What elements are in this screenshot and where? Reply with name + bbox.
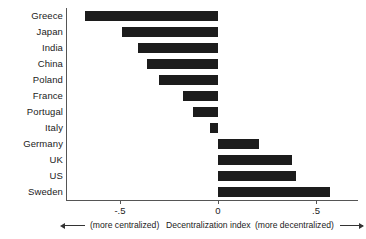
x-tick-label-0: -.5 <box>100 205 140 216</box>
x-tick-mark-1 <box>218 200 219 204</box>
bar-japan <box>122 27 218 37</box>
bar-italy <box>210 123 218 133</box>
category-label-italy: Italy <box>1 123 63 133</box>
category-label-china: China <box>1 59 63 69</box>
bar-uk <box>218 155 292 165</box>
category-label-poland: Poland <box>1 75 63 85</box>
bar-portugal <box>193 107 218 117</box>
arrow-right-icon <box>338 221 364 229</box>
caption-right: (more decentralized) <box>255 219 364 231</box>
bar-poland <box>159 75 218 85</box>
category-label-us: US <box>1 171 63 181</box>
x-tick-label-1: 0 <box>198 205 238 216</box>
category-label-germany: Germany <box>1 139 63 149</box>
bar-india <box>138 43 218 53</box>
caption-left: (more centralized) <box>60 219 159 231</box>
bar-germany <box>218 139 259 149</box>
arrow-left-icon <box>60 221 86 229</box>
caption-right-label: (more decentralized) <box>255 219 334 231</box>
x-axis-line <box>66 200 358 201</box>
caption-center-label: Decentralization index <box>166 219 251 231</box>
x-tick-mark-0 <box>120 200 121 204</box>
x-tick-label-2: .5 <box>296 205 336 216</box>
bar-france <box>183 91 218 101</box>
bar-us <box>218 171 296 181</box>
category-label-sweden: Sweden <box>1 187 63 197</box>
bar-china <box>147 59 218 69</box>
category-axis-labels: GreeceJapanIndiaChinaPolandFrancePortuga… <box>0 8 63 200</box>
axis-caption-row: (more centralized) Decentralization inde… <box>0 219 366 233</box>
category-label-france: France <box>1 91 63 101</box>
category-label-greece: Greece <box>1 11 63 21</box>
decentralization-index-chart: GreeceJapanIndiaChinaPolandFrancePortuga… <box>0 0 366 239</box>
bar-sweden <box>218 187 330 197</box>
category-label-portugal: Portugal <box>1 107 63 117</box>
category-label-uk: UK <box>1 155 63 165</box>
category-label-japan: Japan <box>1 27 63 37</box>
x-tick-mark-2 <box>316 200 317 204</box>
plot-area <box>66 8 358 200</box>
caption-left-label: (more centralized) <box>90 219 159 231</box>
bar-greece <box>85 11 218 21</box>
category-label-india: India <box>1 43 63 53</box>
